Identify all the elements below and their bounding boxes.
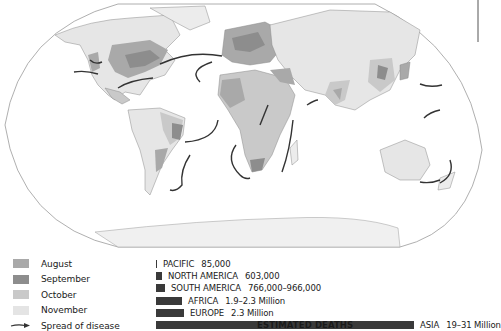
bar [156, 272, 162, 280]
swatch-august [13, 259, 29, 268]
bar [156, 309, 184, 317]
bar [156, 284, 165, 292]
legend-item-spread: Spread of disease [10, 318, 150, 331]
chart-title: ESTIMATED DEATHS [257, 320, 353, 330]
world-map [0, 0, 486, 250]
swatch-october [13, 290, 29, 299]
bar [156, 297, 182, 305]
bar-row-europe: EUROPE2.3 Million [156, 307, 486, 319]
bar-row-south-america: SOUTH AMERICA766,000–966,000 [156, 282, 486, 294]
bar-label: EUROPE2.3 Million [190, 308, 274, 318]
legend-item-october: October [10, 287, 150, 303]
legend: August September October November Spread… [10, 256, 150, 331]
swatch-november [13, 306, 29, 315]
legend-label: November [41, 305, 87, 315]
legend-item-august: August [10, 256, 150, 272]
bar-row-africa: AFRICA1.9–2.3 Million [156, 295, 486, 307]
bar-row-north-america: NORTH AMERICA603,000 [156, 270, 486, 282]
bar-label: ASIA19–31 Million [420, 320, 501, 330]
bar-row-pacific: PACIFIC85,000 [156, 258, 486, 270]
swatch-september [13, 275, 29, 284]
bar-label: AFRICA1.9–2.3 Million [188, 296, 285, 306]
legend-label: October [41, 290, 76, 300]
bar-label: PACIFIC85,000 [163, 259, 230, 269]
legend-label: September [41, 274, 90, 284]
bar [156, 260, 157, 268]
bar-label: SOUTH AMERICA766,000–966,000 [171, 283, 321, 293]
legend-item-november: November [10, 303, 150, 319]
bar-label: NORTH AMERICA603,000 [168, 271, 279, 281]
legend-item-september: September [10, 272, 150, 288]
legend-label: August [41, 259, 72, 269]
legend-label: Spread of disease [41, 321, 120, 331]
arrow-icon [10, 321, 32, 330]
